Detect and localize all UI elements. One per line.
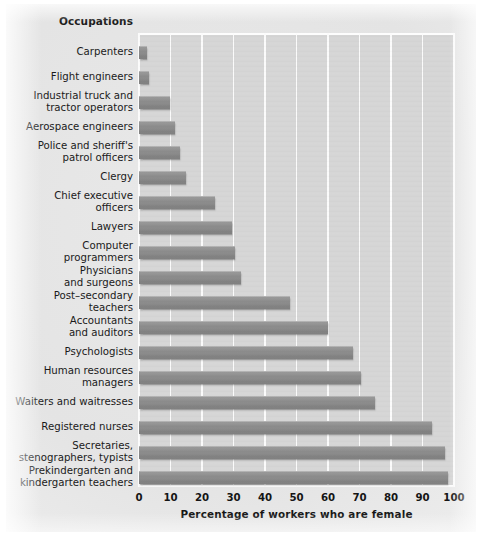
category-label-line: programmers <box>0 252 133 264</box>
gridline-40 <box>264 33 266 487</box>
category-label: Secretaries,stenographers, typists <box>0 440 133 463</box>
category-label-line: Police and sheriff's <box>0 140 133 152</box>
category-label-line: officers <box>0 202 133 214</box>
bar <box>139 271 241 284</box>
category-label: Lawyers <box>0 221 133 233</box>
bar <box>139 196 215 209</box>
category-label: Aerospace engineers <box>0 121 133 133</box>
category-label-line: patrol officers <box>0 152 133 164</box>
figure-bar-chart: Occupations CarpentersFlight engineersIn… <box>0 0 489 549</box>
gridline-80 <box>390 33 392 487</box>
bar <box>139 121 175 134</box>
gridline-30 <box>233 33 235 487</box>
bar <box>139 221 232 234</box>
bar <box>139 46 147 59</box>
category-label-line: teachers <box>0 302 133 314</box>
category-label-line: Secretaries, <box>0 440 133 452</box>
category-label: Post–secondaryteachers <box>0 290 133 313</box>
category-label-line: and surgeons <box>0 277 133 289</box>
category-label: Carpenters <box>0 46 133 58</box>
gridline-70 <box>359 33 361 487</box>
category-label-line: Chief executive <box>0 190 133 202</box>
category-label-line: Post–secondary <box>0 290 133 302</box>
category-label-line: Registered nurses <box>0 421 133 433</box>
bar-highlight <box>139 146 180 147</box>
category-label-line: Computer <box>0 240 133 252</box>
category-label-line: Prekindergarten and <box>0 465 133 477</box>
bar-highlight <box>139 221 232 222</box>
gridline-20 <box>201 33 203 487</box>
category-label-line: Industrial truck and <box>0 90 133 102</box>
bar <box>139 346 353 359</box>
bar-highlight <box>139 446 445 447</box>
category-label: Psychologists <box>0 346 133 358</box>
bar <box>139 296 290 309</box>
bar <box>139 371 361 384</box>
category-label: Physiciansand surgeons <box>0 265 133 288</box>
gridline-60 <box>327 33 329 487</box>
bar-highlight <box>139 296 290 297</box>
bar-highlight <box>139 471 448 472</box>
category-label-line: Accountants <box>0 315 133 327</box>
category-label: Flight engineers <box>0 71 133 83</box>
category-label-line: Physicians <box>0 265 133 277</box>
category-label-line: Psychologists <box>0 346 133 358</box>
bar-highlight <box>139 246 235 247</box>
category-label: Chief executiveofficers <box>0 190 133 213</box>
category-label-line: kindergarten teachers <box>0 477 133 489</box>
bar-highlight <box>139 121 175 122</box>
gridline-10 <box>170 33 172 487</box>
bar <box>139 396 375 409</box>
bar-highlight <box>139 96 170 97</box>
bar <box>139 446 445 459</box>
category-label-line: Lawyers <box>0 221 133 233</box>
bar-highlight <box>139 171 186 172</box>
bar-highlight <box>139 371 361 372</box>
gridline-50 <box>296 33 298 487</box>
category-label-line: and auditors <box>0 327 133 339</box>
category-label: Computerprogrammers <box>0 240 133 263</box>
occupations-column-header: Occupations <box>0 15 133 27</box>
bar-highlight <box>139 271 241 272</box>
x-axis-title: Percentage of workers who are female <box>139 508 454 520</box>
plot-area <box>139 33 454 487</box>
bar-highlight <box>139 71 149 72</box>
category-label: Prekindergarten andkindergarten teachers <box>0 465 133 488</box>
bar-highlight <box>139 421 432 422</box>
bar <box>139 96 170 109</box>
bar <box>139 471 448 484</box>
bar-highlight <box>139 321 328 322</box>
category-label-line: tractor operators <box>0 102 133 114</box>
bar <box>139 321 328 334</box>
category-label: Waiters and waitresses <box>0 396 133 408</box>
category-label-line: Clergy <box>0 171 133 183</box>
category-label-line: Human resources <box>0 365 133 377</box>
bar <box>139 246 235 259</box>
bar-highlight <box>139 396 375 397</box>
category-label: Registered nurses <box>0 421 133 433</box>
category-label-line: Carpenters <box>0 46 133 58</box>
category-label-line: Aerospace engineers <box>0 121 133 133</box>
x-tick-100: 100 <box>434 492 474 503</box>
bar <box>139 146 180 159</box>
bar <box>139 421 432 434</box>
bar-highlight <box>139 46 147 47</box>
category-label-line: stenographers, typists <box>0 452 133 464</box>
bar <box>139 171 186 184</box>
category-label-line: Flight engineers <box>0 71 133 83</box>
category-label-line: Waiters and waitresses <box>0 396 133 408</box>
category-label-line: managers <box>0 377 133 389</box>
gridline-90 <box>422 33 424 487</box>
gridline-100 <box>453 33 455 487</box>
bar-highlight <box>139 346 353 347</box>
bar-highlight <box>139 196 215 197</box>
category-label: Accountantsand auditors <box>0 315 133 338</box>
category-label: Clergy <box>0 171 133 183</box>
category-label: Police and sheriff'spatrol officers <box>0 140 133 163</box>
category-label: Industrial truck andtractor operators <box>0 90 133 113</box>
category-label: Human resourcesmanagers <box>0 365 133 388</box>
bar <box>139 71 149 84</box>
